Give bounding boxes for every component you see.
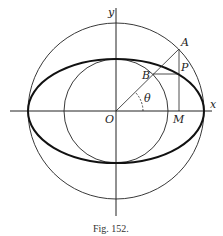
y-axis-label: y [107, 6, 115, 19]
x-axis-label: x [210, 98, 217, 111]
angle-arc [135, 92, 143, 111]
figure-caption: Fig. 152. [93, 223, 129, 234]
point-a-label: A [180, 36, 189, 49]
ellipse-construction-diagram: y x O A B P M θ Fig. 152. [0, 0, 223, 236]
point-b-label: B [141, 69, 150, 82]
origin-label: O [105, 113, 114, 126]
point-p-label: P [180, 61, 189, 74]
angle-theta-label: θ [144, 92, 151, 105]
point-m-label: M [172, 113, 185, 126]
